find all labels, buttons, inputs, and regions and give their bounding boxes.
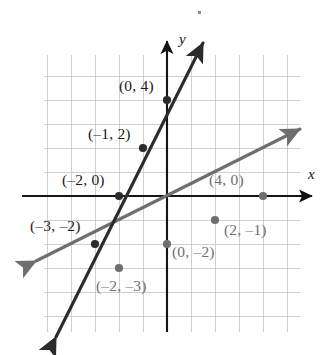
point-label-p2m1: (2, –1) (224, 222, 267, 238)
plotted-point (91, 240, 99, 248)
plotted-point (115, 192, 123, 200)
point-label-pm3m2: (–3, –2) (30, 218, 81, 234)
graph-figure: y x (0, 4)(–1, 2)(–2, 0)(–3, –2)(4, 0)(2… (0, 0, 326, 355)
plotted-point (115, 264, 123, 272)
x-axis-label: x (308, 166, 315, 183)
point-label-pm12: (–1, 2) (88, 126, 131, 142)
plotted-point (163, 240, 171, 248)
point-label-p40: (4, 0) (209, 172, 244, 188)
plotted-point (163, 96, 171, 104)
y-axis-label: y (179, 31, 186, 48)
point-label-p04: (0, 4) (119, 78, 154, 94)
plotted-point (139, 144, 147, 152)
plotted-point (259, 192, 267, 200)
point-label-p0m2: (0, –2) (172, 244, 215, 260)
point-label-pm20: (–2, 0) (62, 172, 105, 188)
coordinate-plane-svg (0, 0, 326, 355)
plotted-point (211, 216, 219, 224)
point-label-pm2m3: (–2, –3) (96, 278, 147, 294)
